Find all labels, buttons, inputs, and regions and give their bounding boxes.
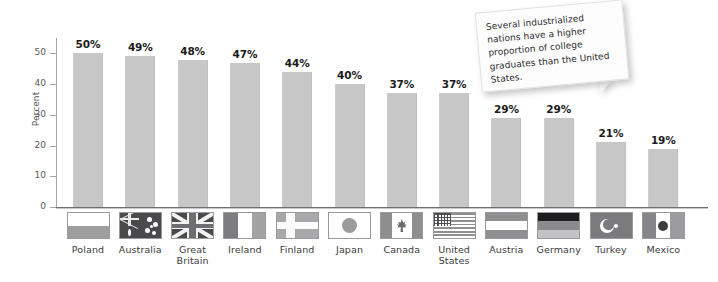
flag-finland-icon bbox=[276, 212, 319, 239]
flag-ireland-icon bbox=[223, 212, 266, 239]
country-label: Turkey bbox=[585, 244, 637, 255]
y-tick-mark bbox=[50, 146, 56, 147]
legend-item-mexico: Mexico bbox=[637, 212, 689, 255]
flag-australia-icon bbox=[119, 212, 162, 239]
bar-value-label: 40% bbox=[322, 69, 378, 81]
bar-value-label: 21% bbox=[583, 127, 639, 139]
legend-item-ireland: Ireland bbox=[219, 212, 271, 255]
country-label: Ireland bbox=[219, 244, 271, 255]
bar bbox=[125, 56, 155, 207]
bar-value-label: 37% bbox=[374, 78, 430, 90]
y-tick-label: 40 bbox=[12, 78, 46, 88]
flag-japan-icon bbox=[328, 212, 371, 239]
y-tick-mark bbox=[50, 176, 56, 177]
flag-germany-icon bbox=[537, 212, 580, 239]
bar-value-label: 29% bbox=[478, 103, 534, 115]
callout-text: Several industrialized nations have a hi… bbox=[485, 9, 619, 86]
bar bbox=[648, 149, 678, 207]
flag-united-states-icon bbox=[433, 212, 476, 239]
country-label: Mexico bbox=[637, 244, 689, 255]
country-label: Canada bbox=[376, 244, 428, 255]
flag-great-britain-icon bbox=[171, 212, 214, 239]
legend-item-united-states: UnitedStates bbox=[428, 212, 480, 266]
bar bbox=[73, 53, 103, 207]
callout-note: Several industrialized nations have a hi… bbox=[475, 0, 630, 93]
bar bbox=[178, 60, 208, 207]
chart-canvas: Percent 50403020100 50%49%48%47%44%40%37… bbox=[0, 0, 718, 282]
country-label: Austria bbox=[480, 244, 532, 255]
bar-value-label: 37% bbox=[426, 78, 482, 90]
country-label: GreatBritain bbox=[167, 244, 219, 266]
legend-item-poland: Poland bbox=[62, 212, 114, 255]
bar-value-label: 49% bbox=[112, 41, 168, 53]
bar bbox=[230, 63, 260, 207]
y-tick-label: 30 bbox=[12, 109, 46, 119]
bar bbox=[387, 93, 417, 207]
legend-item-australia: Australia bbox=[114, 212, 166, 255]
legend-item-finland: Finland bbox=[271, 212, 323, 255]
flag-austria-icon bbox=[485, 212, 528, 239]
bar bbox=[544, 118, 574, 207]
flag-mexico-icon bbox=[642, 212, 685, 239]
legend-item-austria: Austria bbox=[480, 212, 532, 255]
country-label: Finland bbox=[271, 244, 323, 255]
country-label: Germany bbox=[533, 244, 585, 255]
flag-turkey-icon bbox=[590, 212, 633, 239]
y-tick-label: 20 bbox=[12, 140, 46, 150]
y-tick-label: 10 bbox=[12, 170, 46, 180]
bar bbox=[282, 72, 312, 207]
bar-value-label: 44% bbox=[269, 57, 325, 69]
y-tick-mark bbox=[50, 115, 56, 116]
bar-value-label: 50% bbox=[60, 38, 116, 50]
legend-item-canada: Canada bbox=[376, 212, 428, 255]
flag-canada-icon bbox=[380, 212, 423, 239]
y-axis-line bbox=[56, 38, 57, 208]
bar bbox=[491, 118, 521, 207]
bar-value-label: 48% bbox=[165, 45, 221, 57]
y-tick-mark bbox=[50, 207, 56, 208]
bar bbox=[596, 142, 626, 207]
country-label: UnitedStates bbox=[428, 244, 480, 266]
country-label: Japan bbox=[324, 244, 376, 255]
bar bbox=[439, 93, 469, 207]
legend-item-great-britain: GreatBritain bbox=[167, 212, 219, 266]
x-axis-line-shadow bbox=[56, 208, 708, 209]
y-tick-mark bbox=[50, 84, 56, 85]
bar-value-label: 47% bbox=[217, 48, 273, 60]
country-label: Poland bbox=[62, 244, 114, 255]
legend-item-japan: Japan bbox=[324, 212, 376, 255]
bar bbox=[335, 84, 365, 207]
flag-poland-icon bbox=[67, 212, 110, 239]
country-label: Australia bbox=[114, 244, 166, 255]
bar-value-label: 29% bbox=[531, 103, 587, 115]
y-tick-label: 50 bbox=[12, 47, 46, 57]
y-tick-label: 0 bbox=[12, 201, 46, 211]
legend-item-turkey: Turkey bbox=[585, 212, 637, 255]
legend-item-germany: Germany bbox=[533, 212, 585, 255]
bar-value-label: 19% bbox=[635, 134, 691, 146]
y-tick-mark bbox=[50, 53, 56, 54]
